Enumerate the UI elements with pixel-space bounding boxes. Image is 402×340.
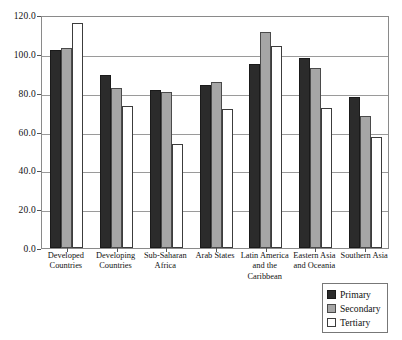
- bar-group: [299, 17, 332, 248]
- bar-tertiary[interactable]: [321, 108, 332, 248]
- tertiary-swatch-icon: [327, 318, 336, 327]
- x-axis-label-line: Southern Asia: [332, 251, 396, 261]
- bar-tertiary[interactable]: [271, 46, 282, 248]
- bar-secondary[interactable]: [360, 116, 371, 248]
- y-axis-tick-label: 120.0: [14, 11, 36, 21]
- bar-tertiary[interactable]: [122, 106, 133, 248]
- bar-group: [249, 17, 282, 248]
- plot-area: [41, 16, 389, 249]
- x-axis-label-line: and Oceania: [283, 261, 347, 271]
- y-axis-tick-label: 40.0: [19, 166, 36, 176]
- legend-item-label: Tertiary: [340, 317, 370, 328]
- bar-chart: 0.020.040.060.080.0100.0120.0 DevelopedC…: [0, 0, 402, 340]
- x-axis-label-line: Africa: [133, 261, 197, 271]
- bar-group: [50, 17, 83, 248]
- y-axis-tick-label: 20.0: [19, 205, 36, 215]
- bar-secondary[interactable]: [211, 82, 222, 248]
- y-axis-tick-label: 60.0: [19, 128, 36, 138]
- primary-swatch-icon: [327, 290, 336, 299]
- y-axis-tick-label: 100.0: [14, 50, 36, 60]
- bar-tertiary[interactable]: [172, 144, 183, 248]
- chart-legend: PrimarySecondaryTertiary: [322, 283, 388, 333]
- bar-primary[interactable]: [249, 64, 260, 248]
- legend-item-label: Secondary: [340, 303, 381, 314]
- bar-primary[interactable]: [150, 90, 161, 248]
- bar-tertiary[interactable]: [222, 109, 233, 248]
- bar-secondary[interactable]: [161, 92, 172, 248]
- bar-group: [200, 17, 233, 248]
- legend-item[interactable]: Secondary: [327, 301, 381, 315]
- bar-secondary[interactable]: [61, 48, 72, 248]
- bar-tertiary[interactable]: [72, 23, 83, 248]
- bar-secondary[interactable]: [111, 88, 122, 248]
- bar-secondary[interactable]: [260, 32, 271, 248]
- y-axis-tick-label: 80.0: [19, 89, 36, 99]
- legend-item[interactable]: Tertiary: [327, 315, 381, 329]
- bar-primary[interactable]: [349, 97, 360, 248]
- bar-secondary[interactable]: [310, 68, 321, 248]
- bars-layer: [42, 17, 388, 248]
- y-axis: 0.020.040.060.080.0100.0120.0: [0, 16, 36, 249]
- bar-group: [349, 17, 382, 248]
- bar-primary[interactable]: [299, 58, 310, 248]
- bar-group: [150, 17, 183, 248]
- bar-tertiary[interactable]: [371, 137, 382, 248]
- secondary-swatch-icon: [327, 304, 336, 313]
- x-axis-category-label: Southern Asia: [332, 251, 396, 261]
- legend-item[interactable]: Primary: [327, 287, 381, 301]
- bar-primary[interactable]: [50, 50, 61, 248]
- x-axis-label-line: Caribbean: [233, 272, 297, 282]
- bar-group: [100, 17, 133, 248]
- bar-primary[interactable]: [100, 75, 111, 248]
- bar-primary[interactable]: [200, 85, 211, 248]
- legend-item-label: Primary: [340, 289, 371, 300]
- y-axis-tick-mark: [37, 249, 41, 250]
